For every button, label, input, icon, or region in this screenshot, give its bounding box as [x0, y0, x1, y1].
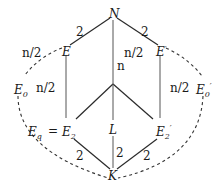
- node-L: L: [108, 123, 117, 137]
- solid-edges: [66, 18, 160, 169]
- label-Eprime-E0prime: n/2: [170, 81, 189, 95]
- edge-center-E2: [76, 84, 113, 119]
- label-N-center: n: [117, 59, 125, 73]
- node-E0-left: E0: [13, 83, 28, 99]
- label-L-K: 2: [116, 146, 124, 160]
- label-E2prime-K: 2: [143, 149, 151, 163]
- nodes: N E E′ E0 E0′ Eq = E2 L E2′ K: [13, 7, 212, 183]
- node-E: E: [61, 45, 71, 59]
- node-E2-prime: E2′: [155, 123, 172, 141]
- node-N: N: [108, 7, 120, 21]
- label-E0-E2: n/2: [36, 81, 55, 95]
- dashed-edges: [18, 48, 203, 178]
- node-E2: E2: [61, 125, 76, 141]
- label-N-Eprime: 2: [141, 25, 149, 39]
- node-Eq: Eq: [27, 125, 42, 141]
- label-E-E0: n/2: [22, 46, 41, 60]
- node-E0-right: E0′: [195, 81, 212, 99]
- label-N-E: 2: [76, 25, 84, 39]
- equals-sign: =: [48, 124, 58, 138]
- lattice-diagram: N E E′ E0 E0′ Eq = E2 L E2′ K 2 2 n n/2 …: [0, 0, 219, 187]
- edge-N-Eprime: [117, 18, 158, 45]
- edge-center-E2prime: [113, 84, 153, 119]
- label-E2-K: 2: [76, 149, 84, 163]
- dashed-Eprime-E0prime: [166, 48, 202, 76]
- label-center-Eprime: n/2: [124, 46, 143, 60]
- node-E-prime: E′: [155, 44, 167, 59]
- node-K: K: [107, 169, 118, 183]
